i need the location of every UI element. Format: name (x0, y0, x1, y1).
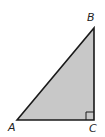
vertex-label-b: B (87, 11, 95, 24)
vertex-label-a: A (7, 121, 16, 134)
vertex-label-c: C (89, 122, 97, 135)
triangle-diagram: A B C (0, 0, 105, 137)
triangle-abc (17, 28, 94, 120)
